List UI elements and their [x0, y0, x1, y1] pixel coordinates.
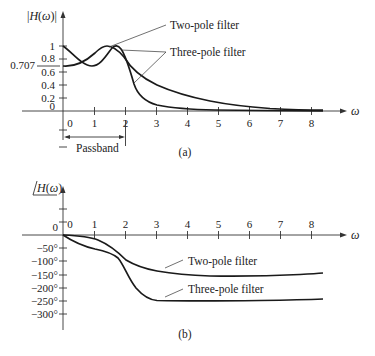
svg-text:8: 8 — [309, 218, 315, 230]
svg-text:−250°: −250° — [31, 295, 58, 307]
two-pole-leader-b — [165, 260, 183, 268]
svg-text:8: 8 — [309, 117, 315, 129]
panel-b-x-ticks: 0 1 2 3 4 5 6 7 8 — [67, 218, 315, 239]
svg-text:5: 5 — [216, 218, 222, 230]
panel-b-label: (b) — [178, 328, 192, 341]
svg-text:2: 2 — [123, 218, 129, 230]
two-pole-label-a: Two-pole filter — [170, 19, 239, 32]
panel-b-y-ticks: 0 −50° −100° −150° −200° −250° −300° — [31, 209, 67, 320]
svg-text:1: 1 — [92, 218, 98, 230]
three-pole-label-a: Three-pole filter — [170, 46, 246, 59]
panel-a-x-title: ω — [351, 104, 359, 118]
y-tick-1: 1 — [50, 40, 56, 52]
svg-text:7: 7 — [278, 117, 284, 129]
svg-text:6: 6 — [247, 117, 253, 129]
marker-0707-label: 0.707 — [10, 59, 35, 71]
svg-text:7: 7 — [278, 218, 284, 230]
panel-a-y-arrow-icon — [61, 11, 66, 18]
panel-b-x-arrow-icon — [340, 233, 347, 238]
svg-text:4: 4 — [185, 218, 191, 230]
panel-b-y-title: H(ω) — [33, 181, 62, 195]
panel-b-phase: H(ω) ω 0 −50° −100° −150° −200° −250° −3… — [22, 181, 359, 341]
svg-text:−300°: −300° — [31, 308, 58, 320]
svg-text:4: 4 — [185, 117, 191, 129]
svg-text:1: 1 — [92, 117, 98, 129]
two-pole-label-b: Two-pole filter — [188, 255, 257, 268]
svg-text:−50°: −50° — [36, 242, 58, 254]
passband-right-arrow-icon — [119, 135, 125, 139]
passband-left-arrow-icon — [64, 135, 70, 139]
panel-a-y-ticks: 1 0.8 0.6 0.4 0.2 0 0.707 — [10, 40, 67, 112]
svg-text:−200°: −200° — [31, 282, 58, 294]
panel-a-label: (a) — [179, 146, 192, 159]
svg-text:−100°: −100° — [31, 255, 58, 267]
svg-text:0: 0 — [67, 117, 73, 129]
y-tick-0.4: 0.4 — [41, 79, 55, 91]
filter-response-figure: |H(ω)| ω 1 0.8 0.6 0.4 0.2 0 0.707 — [0, 0, 375, 356]
panel-a-x-arrow-icon — [340, 109, 347, 114]
svg-text:5: 5 — [216, 117, 222, 129]
svg-text:0: 0 — [67, 218, 73, 230]
svg-text:−150°: −150° — [31, 269, 58, 281]
y-tick-0: 0 — [50, 100, 56, 112]
three-pole-leader-2 — [134, 52, 166, 83]
panel-b-x-title: ω — [351, 228, 359, 242]
svg-text:6: 6 — [247, 218, 253, 230]
y-tick-0.6: 0.6 — [41, 66, 55, 78]
three-pole-leader-1 — [121, 50, 166, 52]
passband-label: Passband — [76, 142, 119, 154]
panel-a-y-title: |H(ω)| — [27, 9, 57, 23]
svg-text:3: 3 — [154, 117, 160, 129]
three-pole-leader-b — [165, 289, 183, 297]
two-pole-leader — [109, 25, 166, 47]
svg-text:3: 3 — [154, 218, 160, 230]
panel-a-magnitude: |H(ω)| ω 1 0.8 0.6 0.4 0.2 0 0.707 — [10, 9, 359, 159]
three-pole-label-b: Three-pole filter — [188, 283, 264, 296]
svg-text:H(ω): H(ω) — [36, 181, 62, 195]
svg-text:0: 0 — [53, 221, 59, 233]
y-tick-0.8: 0.8 — [41, 52, 55, 64]
